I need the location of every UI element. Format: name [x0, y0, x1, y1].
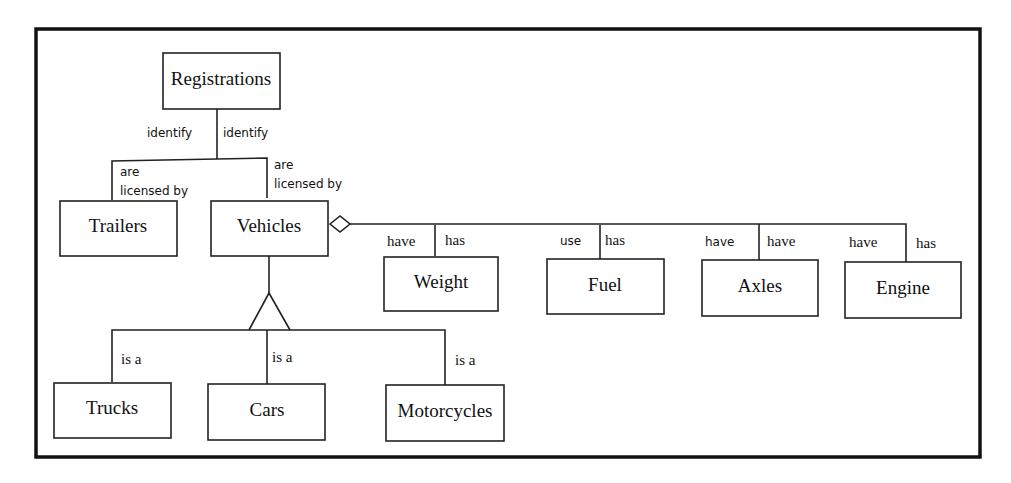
entity-cars[interactable]: Cars	[208, 384, 325, 440]
entity-label: Trailers	[89, 215, 147, 236]
generalization-triangle-icon	[249, 293, 290, 330]
label-licensed-by-vehicles: licensed by	[274, 177, 342, 191]
label-weight-has: has	[445, 232, 465, 248]
label-axles-have-right: have	[767, 233, 796, 249]
label-cars-is-a: is a	[272, 349, 293, 365]
entity-weight[interactable]: Weight	[384, 257, 498, 311]
label-identify-trailers: identify	[147, 126, 192, 140]
entity-label: Weight	[414, 271, 469, 292]
entity-label: Motorcycles	[398, 400, 493, 421]
entity-registrations[interactable]: Registrations	[163, 53, 280, 109]
label-weight-have: have	[387, 233, 416, 249]
entity-label: Axles	[738, 275, 782, 296]
label-fuel-use: use	[560, 234, 581, 248]
entity-label: Trucks	[86, 397, 138, 418]
entity-trucks[interactable]: Trucks	[54, 383, 171, 438]
label-axles-have-left: have	[705, 235, 734, 249]
entity-trailers[interactable]: Trailers	[60, 201, 177, 256]
er-diagram: Registrations Trailers Vehicles Weight F…	[0, 0, 1011, 483]
label-are-vehicles: are	[274, 158, 293, 172]
label-licensed-by-trailers: licensed by	[120, 184, 188, 198]
label-are-trailers: are	[120, 165, 139, 179]
aggregation-diamond-icon	[330, 216, 350, 232]
entity-label: Vehicles	[237, 215, 301, 236]
entity-fuel[interactable]: Fuel	[547, 259, 664, 314]
entity-label: Engine	[876, 277, 930, 298]
entity-label: Fuel	[588, 274, 622, 295]
entity-axles[interactable]: Axles	[702, 260, 818, 316]
label-identify-vehicles: identify	[223, 126, 268, 140]
label-motorcycles-is-a: is a	[455, 352, 476, 368]
label-fuel-has: has	[605, 232, 625, 248]
entity-vehicles[interactable]: Vehicles	[211, 201, 328, 256]
entity-label: Cars	[250, 399, 285, 420]
label-trucks-is-a: is a	[121, 351, 142, 367]
entity-motorcycles[interactable]: Motorcycles	[386, 385, 504, 441]
label-engine-have: have	[849, 234, 878, 250]
entity-label: Registrations	[171, 68, 271, 89]
label-engine-has: has	[916, 235, 936, 251]
entity-engine[interactable]: Engine	[845, 262, 961, 318]
